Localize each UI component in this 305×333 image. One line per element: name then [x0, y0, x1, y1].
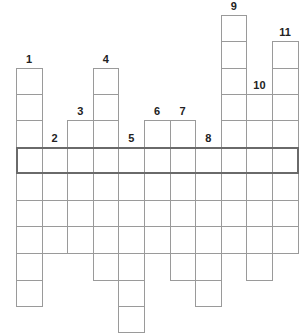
grid-cell-6-1[interactable] [144, 120, 171, 148]
grid-cell-7-4[interactable] [170, 200, 196, 227]
grid-cell-5-6[interactable] [118, 280, 145, 307]
grid-cell-2-2[interactable] [42, 173, 68, 201]
grid-cell-1-5[interactable] [16, 173, 43, 201]
grid-cell-2-4[interactable] [42, 226, 68, 254]
grid-cell-1-4[interactable] [16, 147, 43, 174]
grid-cell-10-5[interactable] [246, 200, 273, 227]
grid-cell-11-1[interactable] [272, 41, 299, 69]
grid-cell-5-4[interactable] [118, 226, 145, 254]
grid-cell-6-2[interactable] [144, 147, 171, 174]
grid-cell-5-2[interactable] [118, 173, 145, 201]
grid-cell-9-6[interactable] [221, 147, 247, 174]
grid-cell-4-7[interactable] [93, 226, 119, 254]
grid-cell-9-1[interactable] [221, 15, 247, 42]
grid-cell-3-2[interactable] [67, 147, 94, 174]
grid-cell-4-2[interactable] [93, 94, 119, 121]
grid-cell-1-2[interactable] [16, 94, 43, 121]
grid-cell-3-4[interactable] [67, 200, 94, 227]
grid-cell-10-3[interactable] [246, 147, 273, 174]
clue-number-9: 9 [221, 0, 247, 12]
grid-cell-10-6[interactable] [246, 226, 273, 254]
grid-cell-9-8[interactable] [221, 200, 247, 227]
grid-cell-4-5[interactable] [93, 173, 119, 201]
grid-cell-11-6[interactable] [272, 173, 299, 201]
grid-cell-10-7[interactable] [246, 253, 273, 281]
grid-cell-4-6[interactable] [93, 200, 119, 227]
grid-cell-9-4[interactable] [221, 94, 247, 121]
grid-cell-11-5[interactable] [272, 147, 299, 174]
clue-number-8: 8 [195, 132, 221, 144]
grid-cell-11-4[interactable] [272, 120, 299, 148]
grid-cell-5-7[interactable] [118, 306, 145, 333]
grid-cell-8-1[interactable] [195, 147, 222, 174]
grid-cell-5-5[interactable] [118, 253, 145, 281]
grid-cell-8-2[interactable] [195, 173, 222, 201]
grid-cell-4-4[interactable] [93, 147, 119, 174]
grid-cell-7-1[interactable] [170, 120, 196, 148]
grid-cell-1-3[interactable] [16, 120, 43, 148]
grid-cell-9-3[interactable] [221, 68, 247, 95]
grid-cell-7-6[interactable] [170, 253, 196, 281]
grid-cell-3-3[interactable] [67, 173, 94, 201]
grid-cell-1-7[interactable] [16, 226, 43, 254]
grid-cell-10-2[interactable] [246, 120, 273, 148]
grid-cell-8-3[interactable] [195, 200, 222, 227]
grid-cell-1-8[interactable] [16, 253, 43, 281]
grid-cell-2-1[interactable] [42, 147, 68, 174]
grid-cell-4-1[interactable] [93, 68, 119, 95]
grid-cell-7-5[interactable] [170, 226, 196, 254]
clue-number-6: 6 [144, 105, 170, 117]
grid-cell-9-9[interactable] [221, 226, 247, 254]
clue-number-2: 2 [42, 132, 68, 144]
grid-cell-9-7[interactable] [221, 173, 247, 201]
grid-cell-11-8[interactable] [272, 226, 299, 254]
grid-cell-11-3[interactable] [272, 94, 299, 121]
grid-cell-10-1[interactable] [246, 94, 273, 121]
clue-number-3: 3 [67, 105, 93, 117]
grid-cell-8-5[interactable] [195, 253, 222, 281]
clue-number-7: 7 [170, 105, 196, 117]
grid-cell-7-3[interactable] [170, 173, 196, 201]
grid-cell-9-5[interactable] [221, 120, 247, 148]
grid-cell-8-4[interactable] [195, 226, 222, 254]
clue-number-4: 4 [93, 53, 119, 65]
grid-cell-10-4[interactable] [246, 173, 273, 201]
grid-cell-11-7[interactable] [272, 200, 299, 227]
grid-cell-5-1[interactable] [118, 147, 145, 174]
grid-cell-3-1[interactable] [67, 120, 94, 148]
grid-cell-7-2[interactable] [170, 147, 196, 174]
grid-cell-1-9[interactable] [16, 280, 43, 307]
grid-cell-8-6[interactable] [195, 280, 222, 307]
clue-number-10: 10 [246, 79, 272, 91]
grid-cell-9-2[interactable] [221, 41, 247, 69]
grid-cell-2-3[interactable] [42, 200, 68, 227]
clue-number-11: 11 [272, 26, 298, 38]
grid-cell-6-5[interactable] [144, 226, 171, 254]
grid-cell-5-3[interactable] [118, 200, 145, 227]
grid-cell-6-4[interactable] [144, 200, 171, 227]
grid-cell-11-2[interactable] [272, 68, 299, 95]
grid-cell-4-8[interactable] [93, 253, 119, 281]
clue-number-5: 5 [118, 132, 144, 144]
clue-number-1: 1 [16, 53, 42, 65]
grid-cell-6-3[interactable] [144, 173, 171, 201]
grid-cell-4-3[interactable] [93, 120, 119, 148]
grid-cell-1-6[interactable] [16, 200, 43, 227]
grid-cell-3-5[interactable] [67, 226, 94, 254]
grid-cell-1-1[interactable] [16, 68, 43, 95]
